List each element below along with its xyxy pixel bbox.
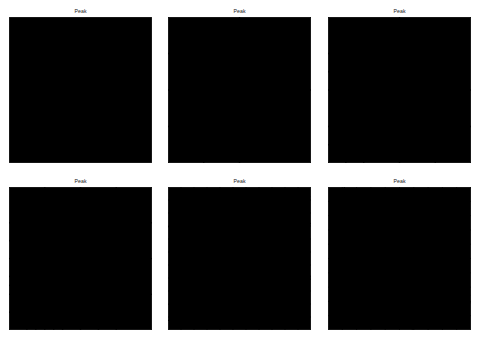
mesh-panel-1: Peak xyxy=(9,8,152,163)
panel-title: Peak xyxy=(168,8,311,14)
panel-title: Peak xyxy=(168,178,311,184)
mesh-panel-6: Peak xyxy=(328,178,471,330)
mesh-plot xyxy=(168,187,311,330)
mesh-panel-5: Peak xyxy=(168,178,311,330)
panel-title: Peak xyxy=(9,8,152,14)
mesh-plot xyxy=(9,187,152,330)
mesh-refinement-figure: PeakPeakPeakPeakPeakPeak xyxy=(0,0,490,340)
mesh-panel-4: Peak xyxy=(9,178,152,330)
panel-title: Peak xyxy=(9,178,152,184)
panel-title: Peak xyxy=(328,8,471,14)
mesh-panel-3: Peak xyxy=(328,8,471,163)
mesh-plot xyxy=(328,187,471,330)
mesh-plot xyxy=(168,17,311,163)
mesh-panel-2: Peak xyxy=(168,8,311,163)
mesh-plot xyxy=(9,17,152,163)
mesh-plot xyxy=(328,17,471,163)
panel-title: Peak xyxy=(328,178,471,184)
